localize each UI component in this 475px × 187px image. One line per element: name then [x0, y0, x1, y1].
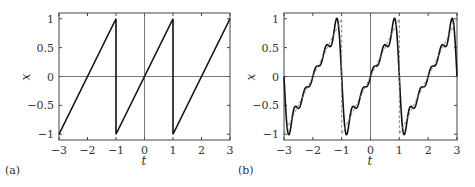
y-tick-label: −1	[38, 128, 54, 141]
x-tick-label: −3	[51, 144, 67, 157]
panel-label-a: (a)	[5, 164, 20, 177]
x-tick-label: −1	[108, 144, 124, 157]
x-tick-label: 3	[227, 144, 234, 157]
ticks-a: −3−2−1012310.50−0.5−1	[27, 13, 233, 157]
figure: −3−2−1012310.50−0.5−1 x t (a) −3−2−10123…	[0, 0, 475, 187]
x-tick-label: −2	[305, 144, 321, 157]
x-tick-label: 1	[170, 144, 177, 157]
y-tick-label: 1	[47, 13, 54, 26]
y-tick-label: −1	[263, 128, 279, 141]
x-tick-label: 1	[396, 144, 403, 157]
panel-label-b: (b)	[238, 164, 254, 177]
y-tick-label: −0.5	[27, 99, 54, 112]
x-tick-label: −2	[79, 144, 95, 157]
x-tick-label: −3	[276, 144, 292, 157]
xlabel-b: t	[368, 154, 373, 168]
chart-panel-a: −3−2−1012310.50−0.5−1 x t (a)	[5, 13, 234, 177]
x-tick-label: 2	[425, 144, 432, 157]
y-tick-label: −0.5	[252, 99, 279, 112]
ylabel-a: x	[19, 73, 33, 80]
y-tick-label: 1	[272, 13, 279, 26]
x-tick-label: 3	[454, 144, 461, 157]
x-tick-label: −1	[334, 144, 350, 157]
y-tick-label: 0.5	[262, 42, 280, 55]
ylabel-b: x	[244, 73, 258, 80]
y-tick-label: 0	[272, 71, 279, 84]
xlabel-a: t	[142, 154, 147, 168]
chart-panel-b: −3−2−1012310.50−0.5−1 x t (b)	[238, 13, 461, 177]
y-tick-label: 0.5	[37, 42, 55, 55]
x-tick-label: 2	[198, 144, 205, 157]
y-tick-label: 0	[47, 71, 54, 84]
